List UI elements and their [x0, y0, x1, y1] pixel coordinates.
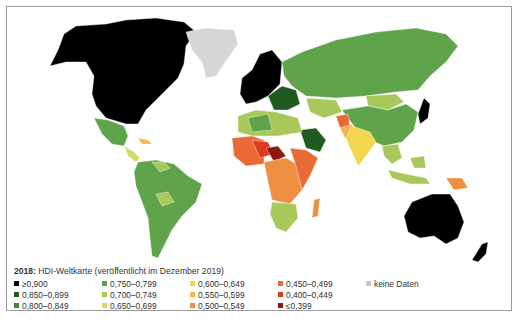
region-greenland	[186, 28, 238, 78]
legend-swatch-icon	[278, 281, 283, 286]
region-russia	[282, 28, 458, 98]
region-north-america	[50, 18, 196, 124]
legend-label: ≥0,900	[22, 279, 48, 289]
legend-label: 0,750–0,799	[110, 279, 157, 289]
legend-label: 0,400–0,449	[286, 290, 333, 300]
legend-item: ≥0,900	[14, 278, 102, 289]
legend-title: 2018: HDI-Weltkarte (veröffentlicht im D…	[14, 266, 504, 276]
legend-item: 0,500–0,549	[190, 300, 278, 311]
legend-item: ≤0,399	[278, 300, 366, 311]
legend-swatch-icon	[102, 281, 107, 286]
legend-swatch-icon	[190, 292, 195, 297]
legend-item: keine Daten	[366, 278, 454, 289]
legend-swatch-icon	[190, 303, 195, 308]
region-australia	[404, 194, 464, 244]
legend-item: 0,450–0,499	[278, 278, 366, 289]
region-saudi-arabia	[300, 128, 326, 152]
legend-label: 0,450–0,499	[286, 279, 333, 289]
legend-item: 0,650–0,699	[102, 300, 190, 311]
region-southern-africa	[270, 202, 298, 232]
region-japan	[418, 98, 430, 124]
region-central-america	[124, 146, 140, 162]
legend: 2018: HDI-Weltkarte (veröffentlicht im D…	[14, 266, 504, 311]
region-caribbean	[138, 138, 152, 144]
legend-label: 0,700–0,749	[110, 290, 157, 300]
legend-swatch-icon	[366, 281, 371, 286]
region-papua	[446, 178, 468, 190]
legend-item: 0,750–0,799	[102, 278, 190, 289]
region-madagascar	[312, 198, 320, 218]
legend-swatch-icon	[278, 303, 283, 308]
legend-item: 0,550–0,599	[190, 289, 278, 300]
legend-label: 0,500–0,549	[198, 301, 245, 311]
legend-title-text: HDI-Weltkarte (veröffentlicht im Dezembe…	[36, 266, 224, 276]
legend-item: 0,800–0,849	[14, 300, 102, 311]
legend-label: 0,850–0,899	[22, 290, 69, 300]
region-central-asia	[306, 98, 342, 118]
legend-label: 0,650–0,699	[110, 301, 157, 311]
region-new-zealand	[472, 242, 488, 262]
legend-item: 0,850–0,899	[14, 289, 102, 300]
legend-swatch-icon	[14, 292, 19, 297]
legend-label: keine Daten	[374, 279, 419, 289]
legend-swatch-icon	[190, 281, 195, 286]
region-southeast-asia	[382, 144, 402, 164]
legend-swatch-icon	[14, 281, 19, 286]
legend-swatch-icon	[14, 303, 19, 308]
region-south-america	[134, 160, 202, 258]
legend-grid: ≥0,9000,850–0,8990,800–0,8490,750–0,7990…	[14, 278, 504, 311]
legend-swatch-icon	[102, 292, 107, 297]
legend-title-year: 2018:	[14, 266, 36, 276]
hdi-world-map	[6, 6, 512, 264]
legend-item: 0,400–0,449	[278, 289, 366, 300]
legend-label: 0,550–0,599	[198, 290, 245, 300]
legend-label: 0,800–0,849	[22, 301, 69, 311]
legend-item: 0,700–0,749	[102, 289, 190, 300]
legend-label: ≤0,399	[286, 301, 312, 311]
legend-swatch-icon	[278, 292, 283, 297]
legend-swatch-icon	[102, 303, 107, 308]
legend-label: 0,600–0,649	[198, 279, 245, 289]
legend-item: 0,600–0,649	[190, 278, 278, 289]
